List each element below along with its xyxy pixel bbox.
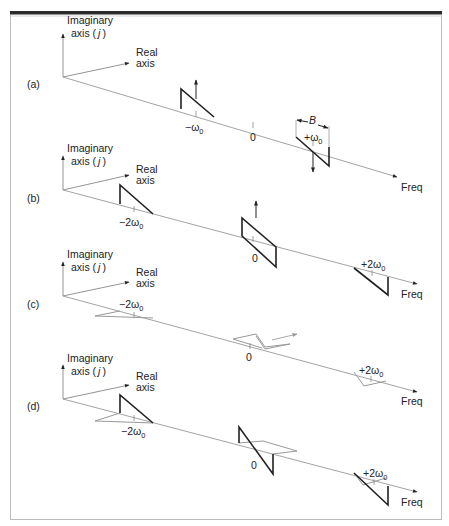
spectrum-neg-w0 [181,89,214,117]
tick-label-zero: 0 [252,252,258,264]
real-axis-label-2: axis [136,381,155,393]
tick-label-neg-2w0: −2ω0 [119,298,143,313]
freq-axis [63,296,417,392]
imaginary-axis-label-2: axis (j) [71,261,106,273]
real-axis [63,282,129,296]
freq-label: Freq [401,288,423,300]
bandwidth-arrow-right-icon [318,125,328,128]
freq-axis [63,77,397,177]
spectrum-neg-2w0-real [95,413,153,423]
spectrum-neg-2w0 [95,311,153,318]
freq-label: Freq [401,496,423,508]
imaginary-axis-label-2: axis (j) [71,365,106,377]
imaginary-axis-label: Imaginary [67,14,114,26]
real-axis-label-2: axis [136,277,155,289]
tick-label-zero: 0 [250,131,256,143]
real-arrow-icon [272,334,297,340]
panel-b: Imaginary axis (j) Real axis (b) Freq −2… [27,142,423,300]
panel-label: (a) [27,78,40,90]
tick-label-pos-2w0: +2ω0 [361,258,385,273]
real-axis-label-2: axis [136,174,155,186]
real-axis [63,63,129,77]
spectrum-neg-2w0-imag [120,395,153,423]
complex-spectrum-diagram: Imaginary axis (j) Real axis (a) Freq −ω… [0,0,449,526]
imaginary-axis-label-2: axis (j) [71,27,106,39]
bandwidth-arrow-left-icon [297,120,308,122]
tick-label-zero: 0 [251,459,257,471]
bandwidth-label: B [309,114,316,126]
tick-label-neg-w0: −ω0 [185,121,204,136]
imaginary-axis-label: Imaginary [67,352,114,364]
real-axis [63,385,129,399]
tick-label-neg-2w0: −2ω0 [121,425,145,440]
real-axis-label-2: axis [136,57,155,69]
imaginary-axis-label: Imaginary [67,248,114,260]
panel-label: (b) [27,192,40,204]
panel-label: (c) [27,298,39,310]
imaginary-axis-label-2: axis (j) [71,155,106,167]
tick-label-zero: 0 [246,351,252,363]
tick-label-pos-2w0: +2ω0 [363,467,387,482]
freq-label: Freq [401,181,423,193]
imaginary-axis-label: Imaginary [67,142,114,154]
freq-label: Freq [401,395,423,407]
real-axis [63,175,129,190]
tick-label-neg-2w0: −2ω0 [119,216,143,231]
panel-c: Imaginary axis (j) Real axis (c) Freq −2… [27,248,423,407]
panel-label: (d) [27,400,40,412]
